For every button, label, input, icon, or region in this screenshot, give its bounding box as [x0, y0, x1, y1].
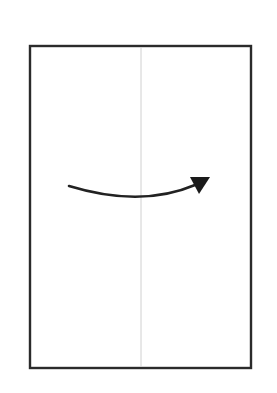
fold-diagram	[0, 0, 277, 393]
